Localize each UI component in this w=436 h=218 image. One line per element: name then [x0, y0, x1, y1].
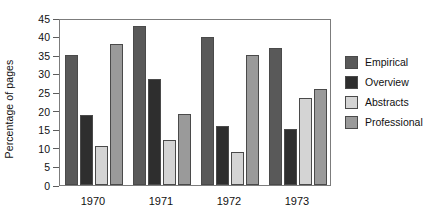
bar-abstracts-1972 — [231, 152, 244, 185]
bar-empirical-1971 — [133, 26, 146, 185]
bar-professional-1970 — [110, 44, 123, 185]
bar-overview-1971 — [148, 79, 161, 185]
legend-item-label: Empirical — [365, 57, 408, 68]
plot-area — [59, 19, 331, 186]
bar-abstracts-1971 — [163, 140, 176, 185]
legend-item-overview[interactable]: Overview — [345, 76, 436, 89]
bar-empirical-1970 — [65, 55, 78, 185]
bar-professional-1972 — [246, 55, 259, 185]
bar-professional-1971 — [178, 114, 191, 185]
bar-overview-1972 — [216, 126, 229, 185]
legend-swatch-icon — [345, 116, 358, 129]
y-axis-tick-label: 5 — [44, 162, 53, 173]
legend-item-abstracts[interactable]: Abstracts — [345, 96, 436, 109]
legend-swatch-icon — [345, 96, 358, 109]
y-axis-tick-label: 25 — [38, 88, 53, 99]
legend-item-empirical[interactable]: Empirical — [345, 56, 436, 69]
bar-group-1971 — [128, 20, 196, 185]
y-axis-tick-label: 0 — [44, 181, 53, 192]
y-axis: 454035302520151050 — [0, 19, 59, 186]
x-axis-label-1970: 1970 — [59, 195, 127, 207]
bar-empirical-1972 — [201, 37, 214, 185]
bar-abstracts-1973 — [299, 98, 312, 185]
bar-abstracts-1970 — [95, 146, 108, 185]
y-axis-tick-label: 10 — [38, 144, 53, 155]
y-axis-tick-label: 15 — [38, 125, 53, 136]
x-axis-label-1973: 1973 — [263, 195, 331, 207]
legend-item-professional[interactable]: Professional — [345, 116, 436, 129]
bar-overview-1970 — [80, 115, 93, 186]
y-axis-tick-label: 20 — [38, 107, 53, 118]
legend-swatch-icon — [345, 56, 358, 69]
x-axis-label-1971: 1971 — [127, 195, 195, 207]
legend-swatch-icon — [345, 76, 358, 89]
bar-group-1973 — [264, 20, 332, 185]
bar-chart-figure: Percentage of pages 454035302520151050 1… — [0, 0, 436, 218]
chart-legend: EmpiricalOverviewAbstractsProfessional — [345, 56, 436, 129]
bar-overview-1973 — [284, 129, 297, 185]
y-axis-tick-label: 35 — [38, 51, 53, 62]
bar-group-1970 — [60, 20, 128, 185]
bars-layer — [60, 20, 330, 185]
y-axis-tick-label: 30 — [38, 69, 53, 80]
legend-item-label: Professional — [365, 117, 423, 128]
y-axis-tick-label: 45 — [38, 14, 53, 25]
y-axis-tick-label: 40 — [38, 32, 53, 43]
legend-item-label: Overview — [365, 77, 409, 88]
bar-professional-1973 — [314, 89, 327, 185]
bar-empirical-1973 — [269, 48, 282, 185]
x-axis: 1970197119721973 — [59, 186, 331, 218]
bar-group-1972 — [196, 20, 264, 185]
legend-item-label: Abstracts — [365, 97, 409, 108]
x-axis-label-1972: 1972 — [195, 195, 263, 207]
